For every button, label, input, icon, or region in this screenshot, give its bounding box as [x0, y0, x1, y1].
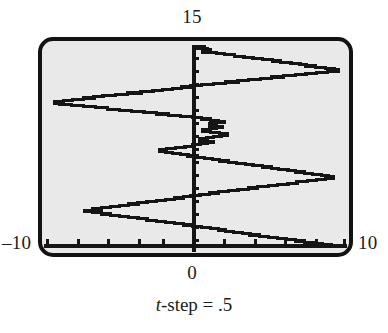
figure-caption: t-step = .5 — [0, 294, 388, 316]
y-axis-max-label: 15 — [0, 6, 386, 28]
x-axis-max-label: 10 — [358, 232, 377, 254]
caption-text: -step = .5 — [161, 294, 232, 315]
x-axis-min-label: –10 — [2, 232, 31, 254]
random-walk-figure: 15 –10 10 0 t-step = .5 — [0, 0, 388, 333]
y-axis-min-label: 0 — [0, 262, 386, 284]
